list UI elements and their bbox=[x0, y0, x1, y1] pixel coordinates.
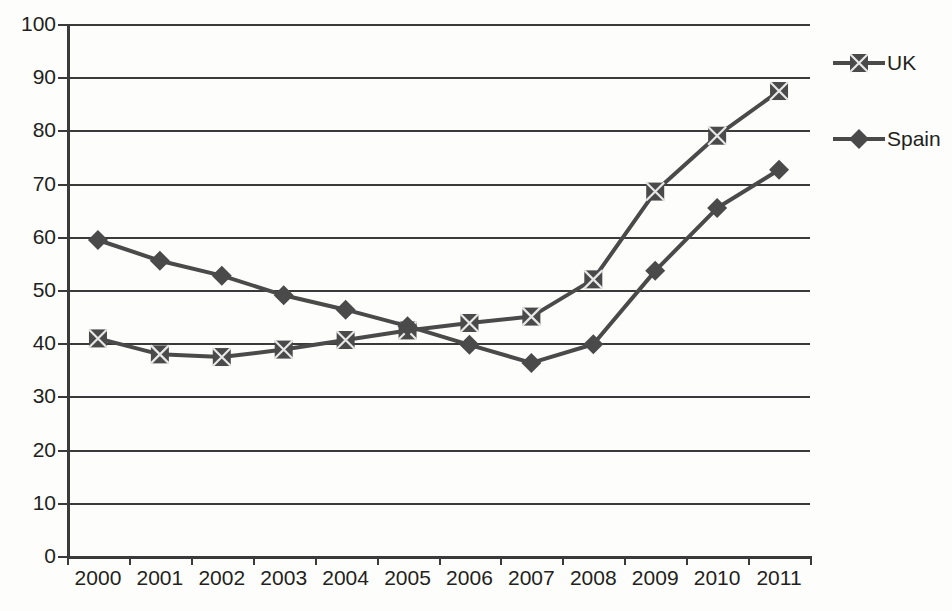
y-tick-label-100: 100 bbox=[0, 12, 56, 36]
gridline-30 bbox=[67, 396, 810, 398]
legend-marker-uk-icon bbox=[844, 50, 874, 76]
x-tick-label-2007: 2007 bbox=[508, 566, 555, 590]
y-tick-label-30: 30 bbox=[0, 384, 56, 408]
x-tick-mark-11 bbox=[748, 556, 750, 565]
y-tick-label-80: 80 bbox=[0, 118, 56, 142]
x-tick-mark-8 bbox=[562, 556, 564, 565]
y-tick-mark-10 bbox=[58, 503, 67, 505]
y-tick-label-40: 40 bbox=[0, 331, 56, 355]
gridline-20 bbox=[67, 450, 810, 452]
y-tick-mark-60 bbox=[58, 237, 67, 239]
gridline-50 bbox=[67, 290, 810, 292]
gridline-10 bbox=[67, 503, 810, 505]
x-tick-label-2008: 2008 bbox=[570, 566, 617, 590]
x-tick-label-2009: 2009 bbox=[632, 566, 679, 590]
legend-swatch-uk bbox=[833, 50, 885, 76]
x-tick-label-2003: 2003 bbox=[260, 566, 307, 590]
x-tick-mark-4 bbox=[315, 556, 317, 565]
y-tick-mark-50 bbox=[58, 290, 67, 292]
gridline-60 bbox=[67, 237, 810, 239]
x-tick-mark-3 bbox=[253, 556, 255, 565]
y-tick-label-10: 10 bbox=[0, 491, 56, 515]
line-chart: 0102030405060708090100 20002001200220032… bbox=[0, 0, 952, 611]
gridline-90 bbox=[67, 77, 810, 79]
x-tick-mark-12 bbox=[810, 556, 812, 565]
legend-label: Spain bbox=[887, 127, 941, 151]
gridline-100 bbox=[67, 24, 810, 26]
x-tick-mark-7 bbox=[500, 556, 502, 565]
plot-area bbox=[67, 24, 810, 556]
y-tick-mark-80 bbox=[58, 130, 67, 132]
x-tick-mark-2 bbox=[191, 556, 193, 565]
y-tick-mark-30 bbox=[58, 396, 67, 398]
y-tick-mark-40 bbox=[58, 343, 67, 345]
y-tick-label-70: 70 bbox=[0, 172, 56, 196]
gridline-70 bbox=[67, 184, 810, 186]
x-tick-label-2006: 2006 bbox=[446, 566, 493, 590]
gridline-80 bbox=[67, 130, 810, 132]
y-tick-label-90: 90 bbox=[0, 65, 56, 89]
legend-marker-diamond-icon bbox=[849, 129, 869, 149]
y-tick-mark-100 bbox=[58, 24, 67, 26]
x-tick-label-2010: 2010 bbox=[694, 566, 741, 590]
y-tick-label-0: 0 bbox=[0, 544, 56, 568]
x-tick-mark-0 bbox=[67, 556, 69, 565]
y-tick-label-60: 60 bbox=[0, 225, 56, 249]
x-tick-mark-1 bbox=[129, 556, 131, 565]
x-tick-label-2000: 2000 bbox=[75, 566, 122, 590]
legend-marker-square-x-icon bbox=[850, 54, 868, 72]
x-tick-mark-10 bbox=[686, 556, 688, 565]
x-tick-label-2005: 2005 bbox=[384, 566, 431, 590]
x-tick-mark-9 bbox=[624, 556, 626, 565]
legend-marker-spain-icon bbox=[844, 126, 874, 152]
y-tick-mark-0 bbox=[58, 556, 67, 558]
x-tick-label-2011: 2011 bbox=[756, 566, 801, 590]
x-tick-label-2001: 2001 bbox=[137, 566, 184, 590]
y-tick-label-50: 50 bbox=[0, 278, 56, 302]
legend-swatch-spain bbox=[833, 126, 885, 152]
x-tick-mark-6 bbox=[439, 556, 441, 565]
y-tick-mark-70 bbox=[58, 184, 67, 186]
legend-item-spain[interactable]: Spain bbox=[833, 126, 941, 152]
x-tick-label-2004: 2004 bbox=[322, 566, 369, 590]
legend-label: UK bbox=[887, 51, 916, 75]
y-tick-mark-20 bbox=[58, 450, 67, 452]
x-tick-mark-5 bbox=[377, 556, 379, 565]
y-tick-label-20: 20 bbox=[0, 438, 56, 462]
legend-item-uk[interactable]: UK bbox=[833, 50, 916, 76]
x-tick-label-2002: 2002 bbox=[198, 566, 245, 590]
y-tick-mark-90 bbox=[58, 77, 67, 79]
gridline-40 bbox=[67, 343, 810, 345]
